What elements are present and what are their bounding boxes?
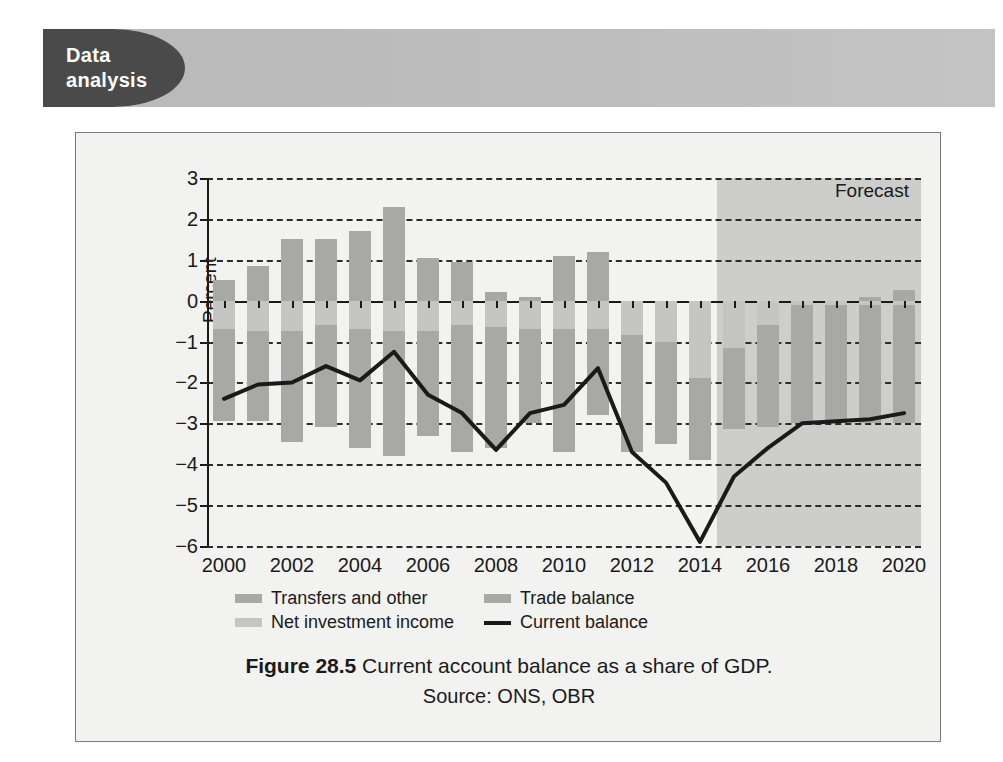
x-tick-label-2010: 2010 xyxy=(542,554,587,577)
y-tick-label--2: −2 xyxy=(175,371,198,394)
figure-page: Data analysis Percent Forecast 3210−1−2−… xyxy=(0,0,1003,762)
legend-label-nii: Net investment income xyxy=(271,612,454,633)
x-tick-label-2002: 2002 xyxy=(270,554,315,577)
y-tick-mark--3 xyxy=(200,423,207,425)
x-tick-mark-2001 xyxy=(258,301,260,308)
x-tick-mark-2012 xyxy=(632,301,634,308)
current-balance-polyline xyxy=(224,352,904,542)
x-tick-mark-2010 xyxy=(564,301,566,308)
y-tick-label--3: −3 xyxy=(175,412,198,435)
y-tick-mark-2 xyxy=(200,219,207,221)
y-tick-mark--1 xyxy=(200,342,207,344)
figure-number: Figure 28.5 xyxy=(245,654,356,677)
legend-swatch-icon-transfers xyxy=(235,594,262,603)
x-tick-mark-2007 xyxy=(462,301,464,308)
x-tick-label-2020: 2020 xyxy=(882,554,927,577)
legend-swatch-icon-nii xyxy=(235,618,262,627)
legend-row-2: Net investment income Current balance xyxy=(207,612,687,636)
y-tick-mark--6 xyxy=(200,546,207,548)
y-tick-mark-3 xyxy=(200,178,207,180)
legend-item-trade-balance: Trade balance xyxy=(484,588,634,609)
y-tick-label-2: 2 xyxy=(187,207,198,230)
figure-caption: Figure 28.5 Current account balance as a… xyxy=(76,651,942,681)
x-tick-label-2006: 2006 xyxy=(406,554,451,577)
x-tick-mark-2000 xyxy=(224,301,226,308)
y-tick-label-3: 3 xyxy=(187,167,198,190)
y-tick-label--6: −6 xyxy=(175,535,198,558)
x-tick-label-2018: 2018 xyxy=(814,554,859,577)
legend-item-transfers-and-other: Transfers and other xyxy=(235,588,427,609)
current-balance-line xyxy=(207,178,921,546)
figure-source: Source: ONS, OBR xyxy=(76,685,942,708)
x-tick-mark-2018 xyxy=(836,301,838,308)
y-tick-label--5: −5 xyxy=(175,494,198,517)
plot-area: Percent Forecast 3210−1−2−3−4−5−6 200020… xyxy=(207,178,921,546)
x-tick-mark-2006 xyxy=(428,301,430,308)
y-tick-mark-0 xyxy=(200,301,207,303)
y-tick-mark--5 xyxy=(200,505,207,507)
x-tick-mark-2008 xyxy=(496,301,498,308)
x-tick-mark-2011 xyxy=(598,301,600,308)
x-tick-label-2000: 2000 xyxy=(202,554,247,577)
figure-caption-text: Current account balance as a share of GD… xyxy=(362,654,773,677)
x-tick-label-2016: 2016 xyxy=(746,554,791,577)
x-tick-mark-2013 xyxy=(666,301,668,308)
x-tick-mark-2020 xyxy=(904,301,906,308)
legend-swatch-icon-line xyxy=(484,621,511,625)
x-tick-mark-2009 xyxy=(530,301,532,308)
y-tick-mark-1 xyxy=(200,260,207,262)
x-tick-label-2008: 2008 xyxy=(474,554,519,577)
x-tick-mark-2003 xyxy=(326,301,328,308)
x-tick-mark-2002 xyxy=(292,301,294,308)
figure-box: Percent Forecast 3210−1−2−3−4−5−6 200020… xyxy=(75,132,941,742)
x-tick-label-2004: 2004 xyxy=(338,554,383,577)
legend-label-trade: Trade balance xyxy=(520,588,634,609)
legend-row-1: Transfers and other Trade balance xyxy=(207,588,687,612)
section-banner xyxy=(43,29,995,107)
x-tick-mark-2019 xyxy=(870,301,872,308)
y-tick-label--4: −4 xyxy=(175,453,198,476)
y-tick-mark--2 xyxy=(200,382,207,384)
section-banner-tab: Data analysis xyxy=(43,29,185,107)
x-tick-mark-2005 xyxy=(394,301,396,308)
legend-swatch-icon-trade xyxy=(484,594,511,603)
x-tick-mark-2015 xyxy=(734,301,736,308)
x-tick-label-2014: 2014 xyxy=(678,554,723,577)
y-tick-label--1: −1 xyxy=(175,330,198,353)
x-tick-mark-2016 xyxy=(768,301,770,308)
x-tick-mark-2014 xyxy=(700,301,702,308)
y-tick-mark--4 xyxy=(200,464,207,466)
x-tick-label-2012: 2012 xyxy=(610,554,655,577)
legend-label-transfers: Transfers and other xyxy=(271,588,427,609)
banner-title-line-1: Data xyxy=(66,43,185,68)
y-tick-label-0: 0 xyxy=(187,289,198,312)
banner-title-line-2: analysis xyxy=(66,68,185,93)
x-tick-mark-2017 xyxy=(802,301,804,308)
legend-item-net-investment-income: Net investment income xyxy=(235,612,454,633)
chart-legend: Transfers and other Trade balance Net in… xyxy=(207,588,687,636)
legend-item-current-balance: Current balance xyxy=(484,612,648,633)
y-tick-label-1: 1 xyxy=(187,248,198,271)
x-tick-mark-2004 xyxy=(360,301,362,308)
legend-label-current-balance: Current balance xyxy=(520,612,648,633)
gridline--6 xyxy=(207,546,921,548)
